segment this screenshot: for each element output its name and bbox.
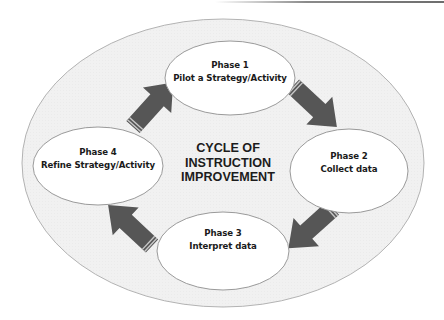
cycle-title-line-3: IMPROVEMENT (165, 170, 291, 185)
phase2-number: Phase 2 (290, 150, 408, 163)
phase4-label: Phase 4 Refine Strategy/Activity (33, 146, 163, 172)
phase1-number: Phase 1 (165, 59, 295, 72)
phase2-label: Phase 2 Collect data (290, 150, 408, 176)
cycle-title: CYCLE OF INSTRUCTION IMPROVEMENT (165, 141, 291, 185)
phase4-number: Phase 4 (33, 146, 163, 159)
cycle-title-line-2: INSTRUCTION (165, 156, 291, 171)
phase3-description: Interpret data (157, 240, 289, 253)
cycle-diagram: Phase 1 Pilot a Strategy/Activity Phase … (0, 0, 444, 320)
phase1-label: Phase 1 Pilot a Strategy/Activity (165, 59, 295, 85)
cycle-title-line-1: CYCLE OF (165, 141, 291, 156)
phase3-label: Phase 3 Interpret data (157, 227, 289, 253)
phase3-number: Phase 3 (157, 227, 289, 240)
phase2-description: Collect data (290, 163, 408, 176)
phase1-description: Pilot a Strategy/Activity (165, 72, 295, 85)
phase4-description: Refine Strategy/Activity (33, 159, 163, 172)
